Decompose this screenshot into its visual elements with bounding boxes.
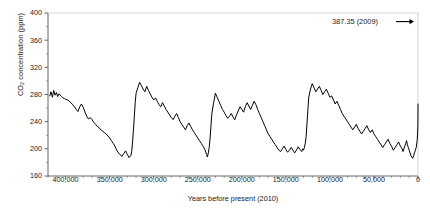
x-tick-label: 250,000 <box>185 176 211 183</box>
chart-figure: CO2 concentration (ppm) 1602002402803203… <box>0 0 430 211</box>
co2-series-line <box>50 82 418 158</box>
x-tick-label: 150,000 <box>273 176 299 183</box>
x-tick-label: 300,000 <box>141 176 167 183</box>
tick-marks <box>45 13 419 180</box>
annotation-arrow-icon <box>396 19 414 24</box>
peak-value-annotation: 387.35 (2009) <box>332 17 378 26</box>
x-axis-title: Years before present (2010) <box>48 194 418 203</box>
x-tick-label: 400,000 <box>53 176 79 183</box>
x-axis-tick-labels: 400,000350,000300,000250,000200,000150,0… <box>0 176 430 190</box>
x-tick-label: 350,000 <box>97 176 123 183</box>
axis-lines <box>48 13 418 176</box>
x-tick-label: 200,000 <box>229 176 255 183</box>
x-tick-label: 100,000 <box>317 176 343 183</box>
x-tick-label: 50,000 <box>363 176 385 183</box>
x-tick-label: 0 <box>416 176 420 183</box>
